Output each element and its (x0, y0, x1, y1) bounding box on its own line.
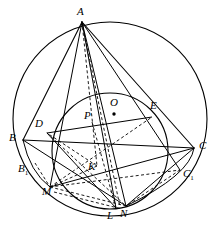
segment-am (50, 22, 82, 187)
label-c1: C1 (183, 168, 194, 182)
label-n: N (120, 208, 127, 219)
diagram-canvas (0, 0, 224, 235)
label-e: E (150, 100, 157, 111)
label-b1-sub: 1 (25, 169, 29, 177)
dashed-m-l (54, 192, 122, 209)
label-a: A (77, 6, 84, 17)
label-d: D (35, 118, 43, 129)
label-b1: B1 (18, 163, 28, 177)
segment-ac (82, 22, 194, 148)
label-m: M (42, 186, 51, 197)
segment-ac1 (82, 22, 180, 170)
label-b: B (9, 132, 16, 143)
label-l: L (107, 210, 113, 221)
label-b1-main: B (18, 162, 25, 174)
center-point-o (112, 112, 115, 115)
segment-bn (23, 140, 126, 206)
label-k: K (88, 161, 95, 172)
label-c1-sub: 1 (190, 174, 194, 182)
label-o: O (110, 97, 118, 108)
label-p: P (84, 110, 91, 121)
label-c: C (199, 140, 206, 151)
dashed-c1-n (126, 170, 180, 206)
segment-mc (50, 148, 194, 187)
segment-ab (23, 22, 82, 140)
geometry-figure: A B C D E O P K L M N B1 C1 (0, 0, 224, 235)
